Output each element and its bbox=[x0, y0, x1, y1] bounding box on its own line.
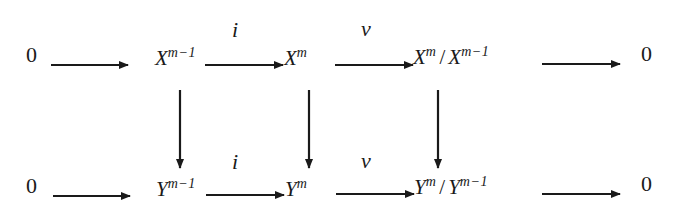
exponent: m−1 bbox=[168, 45, 196, 60]
numerator-base: Y bbox=[414, 175, 426, 199]
exponent: m bbox=[297, 45, 308, 60]
commutative-diagram: 0 Xm−1 i Xm ν Xm/Xm−1 0 0 Ym−1 i Ym ν Ym… bbox=[0, 0, 681, 213]
base: Y bbox=[285, 177, 297, 201]
base: X bbox=[155, 46, 168, 70]
bottom-zero-right: 0 bbox=[641, 173, 652, 195]
slash: / bbox=[439, 45, 445, 69]
bottom-zero-left: 0 bbox=[26, 175, 37, 197]
top-node-quotient: Xm/Xm−1 bbox=[413, 47, 489, 68]
slash: / bbox=[439, 175, 445, 199]
exponent: m bbox=[297, 176, 308, 191]
top-zero-right: 0 bbox=[641, 43, 652, 65]
base: Y bbox=[156, 177, 168, 201]
top-node-x-m-minus-1: Xm−1 bbox=[155, 48, 196, 69]
denominator-exponent: m−1 bbox=[461, 44, 489, 59]
bottom-node-y-m-minus-1: Ym−1 bbox=[156, 179, 196, 200]
bottom-inclusion-label: i bbox=[232, 151, 238, 173]
bottom-projection-label: ν bbox=[361, 150, 371, 172]
denominator-base: X bbox=[448, 45, 461, 69]
top-projection-label: ν bbox=[361, 18, 371, 40]
numerator-base: X bbox=[413, 45, 426, 69]
base: X bbox=[284, 46, 297, 70]
top-node-x-m: Xm bbox=[284, 48, 307, 69]
numerator-exponent: m bbox=[426, 44, 437, 59]
exponent: m−1 bbox=[168, 176, 196, 191]
numerator-exponent: m bbox=[426, 174, 437, 189]
arrows-layer bbox=[0, 0, 681, 213]
denominator-exponent: m−1 bbox=[460, 174, 488, 189]
top-zero-left: 0 bbox=[26, 44, 37, 66]
denominator-base: Y bbox=[448, 175, 460, 199]
bottom-node-y-m: Ym bbox=[285, 179, 307, 200]
bottom-node-quotient: Ym/Ym−1 bbox=[414, 177, 488, 198]
top-inclusion-label: i bbox=[232, 19, 238, 41]
